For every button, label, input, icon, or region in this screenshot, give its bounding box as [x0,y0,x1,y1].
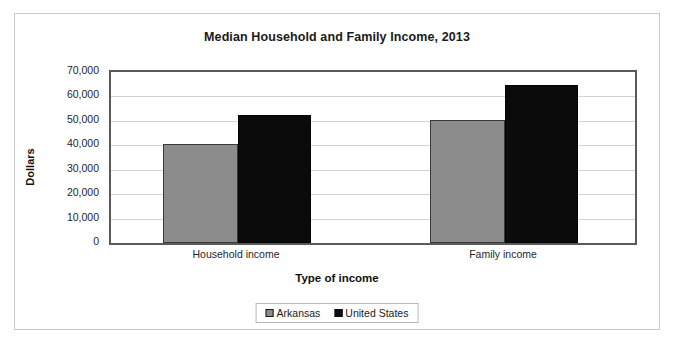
x-axis-category-labels: Household incomeFamily income [109,248,637,264]
x-axis-title: Type of income [14,272,660,284]
black-square-swatch-icon [334,309,342,317]
y-axis-tick-labels: 010,00020,00030,00040,00050,00060,00070,… [40,70,105,241]
y-axis-title: Dollars [22,132,38,202]
chart-legend: ArkansasUnited States [256,303,419,323]
bar-arkansas-family-income [430,120,505,243]
bar-group-container [111,72,635,243]
legend-item-united-states: United States [334,307,408,319]
y-axis-title-text: Dollars [24,148,36,185]
gray-square-swatch-icon [266,309,274,317]
chart-title: Median Household and Family Income, 2013 [14,30,660,44]
legend-item-arkansas: Arkansas [266,307,321,319]
y-axis-tick-label: 20,000 [67,186,99,198]
x-axis-category-label: Family income [469,248,537,260]
y-axis-tick-label: 30,000 [67,162,99,174]
chart-figure: Median Household and Family Income, 2013… [0,0,674,344]
x-axis-category-label: Household income [193,248,280,260]
y-axis-tick-label: 60,000 [67,88,99,100]
legend-label: Arkansas [277,307,321,319]
y-axis-tick-label: 70,000 [67,64,99,76]
bar-united-states-household-income [238,115,311,243]
y-axis-tick-label: 40,000 [67,137,99,149]
y-axis-tick-label: 0 [93,235,99,247]
y-axis-tick-label: 50,000 [67,113,99,125]
bar-arkansas-household-income [163,144,238,243]
plot-area [109,70,637,245]
y-axis-tick-label: 10,000 [67,211,99,223]
bar-united-states-family-income [505,85,578,243]
legend-label: United States [345,307,408,319]
